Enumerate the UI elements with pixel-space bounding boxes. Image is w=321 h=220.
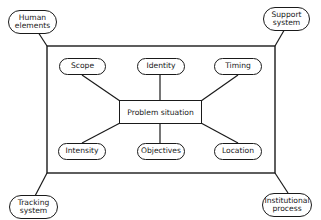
node-tracking-system: Tracking system (9, 195, 58, 219)
node-location-label: Location (222, 147, 254, 156)
node-intensity-label: Intensity (65, 147, 98, 156)
node-objectives-label: Objectives (141, 147, 181, 156)
node-institutional-line2: process (272, 205, 301, 214)
node-human-line2: elements (15, 22, 50, 31)
node-scope: Scope (59, 58, 106, 75)
node-timing-label: Timing (225, 62, 251, 71)
problem-situation-box: Problem situation (119, 100, 202, 124)
node-identity: Identity (137, 58, 185, 75)
node-human-elements: Human elements (8, 10, 57, 34)
node-institutional-process: Institutional process (262, 193, 312, 217)
node-tracking-line2: system (20, 207, 47, 216)
node-identity-label: Identity (146, 62, 175, 71)
problem-situation-label: Problem situation (127, 108, 194, 117)
node-support-line2: system (273, 19, 300, 28)
node-intensity: Intensity (58, 143, 106, 160)
node-location: Location (214, 143, 262, 160)
node-timing: Timing (214, 58, 262, 75)
node-objectives: Objectives (137, 143, 185, 160)
node-support-system: Support system (263, 7, 310, 31)
node-scope-label: Scope (71, 62, 94, 71)
